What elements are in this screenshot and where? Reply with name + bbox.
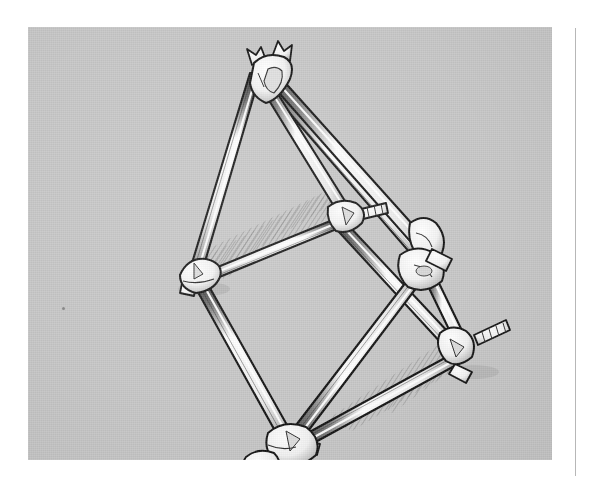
bottom-tip — [243, 451, 279, 460]
strut-left-bottom — [194, 281, 296, 447]
joint-mid — [328, 201, 364, 232]
page-canvas — [0, 0, 591, 486]
illustration-panel — [28, 27, 552, 460]
gutter-rule — [575, 28, 576, 476]
joint-bottom — [243, 424, 317, 460]
ink-speck — [62, 307, 65, 310]
stub-lowerright-threaded — [474, 320, 510, 345]
tensegrity-structure-figure — [28, 27, 552, 460]
joint-lower-right — [438, 327, 474, 364]
